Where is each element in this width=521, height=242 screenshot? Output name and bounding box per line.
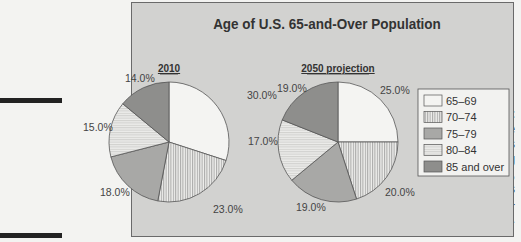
- chart-title: Age of U.S. 65-and-Over Population: [213, 15, 441, 32]
- pie-2050: [278, 82, 398, 202]
- pie-2050-label-80-84: 17.0%: [248, 135, 278, 147]
- pie-2010: [109, 82, 229, 202]
- pie-2010-label-85-over: 14.0%: [125, 72, 155, 84]
- pie-2050-label-70-74: 20.0%: [385, 186, 415, 198]
- pie-2050-label-65-69: 25.0%: [380, 84, 410, 96]
- pie-2010-label-75-79: 18.0%: [100, 186, 130, 198]
- legend-label-70-74: 70–74: [446, 111, 477, 123]
- legend-label-85-over: 85 and over: [446, 161, 504, 173]
- legend-swatch-75-79: [424, 128, 442, 139]
- legend: 65–6970–7475–7980–8485 and over: [418, 89, 509, 176]
- pie-2010-label-80-84: 15.0%: [83, 121, 113, 133]
- legend-label-65-69: 65–69: [446, 95, 477, 107]
- legend-swatch-65-69: [424, 95, 442, 106]
- pie-2050-label-75-79: 19.0%: [296, 201, 326, 213]
- chart-svg: Age of U.S. 65-and-Over Population 2010 …: [0, 0, 521, 242]
- pie-2010-title: 2010: [158, 63, 181, 74]
- legend-swatch-80-84: [424, 145, 442, 156]
- pie-2010-label-65-69: 30.0%: [247, 89, 277, 101]
- legend-swatch-85-over: [424, 161, 442, 172]
- pie-2050-title: 2050 projection: [301, 63, 374, 74]
- pie-2010-label-70-74: 23.0%: [213, 203, 243, 215]
- legend-swatch-70-74: [424, 112, 442, 123]
- legend-label-80-84: 80–84: [446, 144, 477, 156]
- pie-2050-label-85-over: 19.0%: [277, 82, 307, 94]
- legend-label-75-79: 75–79: [446, 128, 477, 140]
